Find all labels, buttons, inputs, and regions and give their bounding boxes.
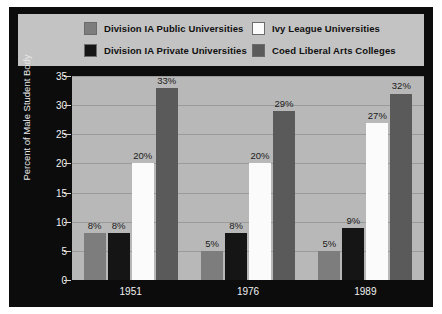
y-axis-tick-mark <box>64 251 71 252</box>
y-axis-tick-mark <box>64 163 71 164</box>
bar <box>273 111 295 280</box>
legend-swatch-icon <box>84 44 97 57</box>
bar-value-label: 27% <box>368 110 387 121</box>
legend-swatch-icon <box>84 22 97 35</box>
bar-value-label: 5% <box>322 238 336 249</box>
bar <box>225 233 247 280</box>
y-axis-tick-mark <box>64 193 71 194</box>
legend-swatch-icon <box>252 44 265 57</box>
x-axis-tick-label: 1951 <box>120 286 142 297</box>
y-axis-tick-mark <box>64 134 71 135</box>
legend-label: Coed Liberal Arts Colleges <box>272 45 396 56</box>
bar-value-label: 9% <box>346 215 360 226</box>
legend-label: Ivy League Universities <box>272 23 380 34</box>
y-axis-tick-label: 20 <box>27 158 67 169</box>
y-axis-tick-label: 5 <box>27 245 67 256</box>
chart-legend: Division IA Public Universities Division… <box>18 14 424 66</box>
bar-value-label: 20% <box>133 150 152 161</box>
x-axis: 195119761989 <box>72 281 424 305</box>
legend-item-ivy-league-universities: Ivy League Universities <box>252 18 380 38</box>
y-axis-tick-label: 0 <box>27 275 67 286</box>
legend-label: Division IA Public Universities <box>104 23 243 34</box>
bar <box>156 88 178 280</box>
y-axis-tick-label: 25 <box>27 129 67 140</box>
bar-value-label: 8% <box>112 220 126 231</box>
plot-area: 8%8%20%33%5%8%20%29%5%9%27%32% <box>72 76 424 280</box>
chart-figure: Division IA Public Universities Division… <box>9 7 433 307</box>
y-axis-tick-mark <box>64 105 71 106</box>
y-axis-tick-label: 10 <box>27 216 67 227</box>
y-axis-tick-mark <box>64 280 71 281</box>
bar <box>201 251 223 280</box>
gridline <box>72 76 424 77</box>
legend-item-coed-liberal-arts-colleges: Coed Liberal Arts Colleges <box>252 40 396 60</box>
y-axis-tick-mark <box>64 222 71 223</box>
bar <box>84 233 106 280</box>
y-axis-title: Percent of Male Student Body <box>21 38 32 198</box>
y-axis-tick-label: 15 <box>27 187 67 198</box>
gridline <box>72 105 424 106</box>
bar <box>132 163 154 280</box>
bar <box>249 163 271 280</box>
bar-value-label: 8% <box>229 220 243 231</box>
legend-label: Division IA Private Universities <box>104 45 247 56</box>
legend-swatch-icon <box>252 22 265 35</box>
legend-item-division-ia-public-universities: Division IA Public Universities <box>84 18 243 38</box>
bar-value-label: 8% <box>88 220 102 231</box>
x-axis-tick-label: 1976 <box>237 286 259 297</box>
x-axis-tick-label: 1989 <box>354 286 376 297</box>
bar <box>390 94 412 281</box>
bar-value-label: 5% <box>205 238 219 249</box>
y-axis-tick-label: 30 <box>27 100 67 111</box>
bar-value-label: 29% <box>274 98 293 109</box>
bar <box>108 233 130 280</box>
y-axis-tick-label: 35 <box>27 71 67 82</box>
bar <box>366 123 388 280</box>
bar-value-label: 32% <box>392 80 411 91</box>
bar <box>342 228 364 280</box>
legend-item-division-ia-private-universities: Division IA Private Universities <box>84 40 247 60</box>
bar <box>318 251 340 280</box>
bar-value-label: 33% <box>157 75 176 86</box>
bar-value-label: 20% <box>250 150 269 161</box>
y-axis-tick-mark <box>64 76 71 77</box>
